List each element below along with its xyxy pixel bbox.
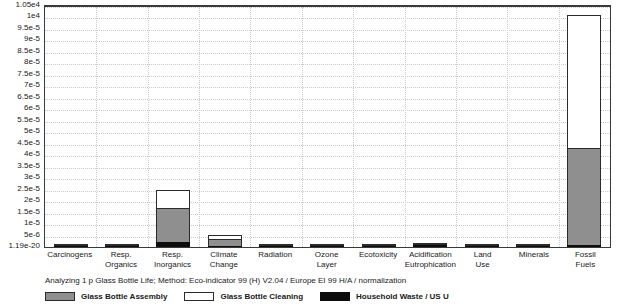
y-axis-tick-label: 1.19e-20	[8, 242, 40, 250]
x-axis-category-label: AcidificationEutrophication	[404, 250, 457, 274]
legend-swatch-cleaning	[184, 292, 214, 301]
bar-slot	[456, 7, 507, 247]
bar-segment-waste	[310, 246, 344, 248]
legend-item[interactable]: Glass Bottle Cleaning	[184, 292, 303, 301]
bar-segment-waste	[54, 246, 88, 248]
y-axis-tick-label: 9.5e-5	[17, 24, 40, 32]
y-axis-tick-label: 1e-5	[24, 219, 40, 227]
bar-segment-assembly	[156, 208, 190, 244]
y-axis-tick-label: 6e-5	[24, 104, 40, 112]
bar-segment-waste	[413, 245, 447, 248]
y-axis-tick-label: 6.5e-5	[17, 93, 40, 101]
stacked-bar[interactable]	[105, 244, 139, 247]
y-axis-tick-label: 7e-5	[24, 81, 40, 89]
y-axis-tick-label: 7.5e-5	[17, 70, 40, 78]
bar-slot	[148, 7, 199, 247]
y-axis-tick-label: 1e4	[27, 12, 40, 20]
bar-segment-waste	[208, 246, 242, 248]
y-axis-tick-label: 2e-5	[24, 196, 40, 204]
stacked-bar[interactable]	[567, 15, 601, 247]
bar-segment-waste	[105, 246, 139, 248]
bar-segment-cleaning	[567, 15, 601, 148]
bar-segment-waste	[156, 242, 190, 248]
x-axis-labels: CarcinogensResp.OrganicsResp.InorganicsC…	[44, 250, 611, 274]
stacked-bar[interactable]	[310, 244, 344, 247]
stacked-bar[interactable]	[413, 243, 447, 247]
x-axis-category-label: Minerals	[508, 250, 559, 274]
chart-caption: Analyzing 1 p Glass Bottle Life; Method:…	[45, 276, 406, 285]
legend-item[interactable]: Glass Bottle Assembly	[45, 292, 167, 301]
x-axis-category-label: Radiation	[250, 250, 301, 274]
bar-slot	[507, 7, 558, 247]
y-axis-tick-label: 1.5e-5	[17, 208, 40, 216]
legend-label: Household Waste / US U	[356, 292, 449, 301]
y-axis-tick-label: 2.5e-5	[17, 185, 40, 193]
y-axis-tick-label: 4e-5	[24, 150, 40, 158]
y-axis-tick-label: 4.5e-5	[17, 139, 40, 147]
y-axis-tick-label: 8e-5	[24, 58, 40, 66]
x-axis-category-label: Ecotoxicity	[352, 250, 403, 274]
bar-segment-cleaning	[156, 190, 190, 208]
bar-segment-assembly	[567, 148, 601, 247]
x-axis-category-label: OzoneLayer	[301, 250, 352, 274]
y-axis: 1.05e41e49.5e-59e-58.5e-58e-57.5e-57e-56…	[0, 0, 44, 252]
y-axis-tick-label: 9e-5	[24, 35, 40, 43]
bar-slot	[199, 7, 250, 247]
y-axis-tick-label: 5e-5	[24, 127, 40, 135]
bar-slot	[302, 7, 353, 247]
x-axis-category-label: Resp.Organics	[95, 250, 146, 274]
bar-slot	[559, 7, 610, 247]
bar-series-container	[45, 7, 610, 247]
y-axis-tick-label: 5e-6	[24, 231, 40, 239]
stacked-bar[interactable]	[208, 235, 242, 247]
x-axis-category-label: LandUse	[457, 250, 508, 274]
bar-slot	[353, 7, 404, 247]
y-axis-tick-label: 1.05e4	[16, 1, 40, 9]
legend-swatch-assembly	[45, 292, 75, 301]
bar-segment-waste	[567, 245, 601, 248]
x-axis-category-label: Resp.Inorganics	[147, 250, 198, 274]
bar-slot	[250, 7, 301, 247]
stacked-bar[interactable]	[516, 244, 550, 247]
bar-segment-waste	[259, 246, 293, 248]
y-axis-tick-label: 3.5e-5	[17, 162, 40, 170]
y-axis-tick-label: 5.5e-5	[17, 116, 40, 124]
stacked-bar[interactable]	[465, 244, 499, 247]
normalization-bar-chart: 1.05e41e49.5e-59e-58.5e-58e-57.5e-57e-56…	[0, 0, 618, 308]
legend-item[interactable]: Household Waste / US U	[320, 292, 449, 301]
stacked-bar[interactable]	[156, 190, 190, 247]
legend-label: Glass Bottle Assembly	[81, 292, 167, 301]
x-axis-category-label: ClimateChange	[198, 250, 249, 274]
bar-segment-waste	[465, 246, 499, 248]
bar-slot	[405, 7, 456, 247]
x-axis-category-label: FossilFuels	[560, 250, 611, 274]
stacked-bar[interactable]	[362, 244, 396, 247]
stacked-bar[interactable]	[259, 244, 293, 247]
bar-segment-waste	[516, 246, 550, 248]
y-axis-tick-label: 8.5e-5	[17, 47, 40, 55]
chart-legend: Glass Bottle AssemblyGlass Bottle Cleani…	[45, 290, 466, 302]
bar-segment-waste	[362, 246, 396, 248]
bar-slot	[45, 7, 96, 247]
bar-slot	[96, 7, 147, 247]
y-axis-tick-label: 3e-5	[24, 173, 40, 181]
legend-label: Glass Bottle Cleaning	[220, 292, 303, 301]
legend-swatch-waste	[320, 292, 350, 301]
stacked-bar[interactable]	[54, 244, 88, 247]
x-axis-category-label: Carcinogens	[44, 250, 95, 274]
plot-area	[44, 5, 611, 248]
